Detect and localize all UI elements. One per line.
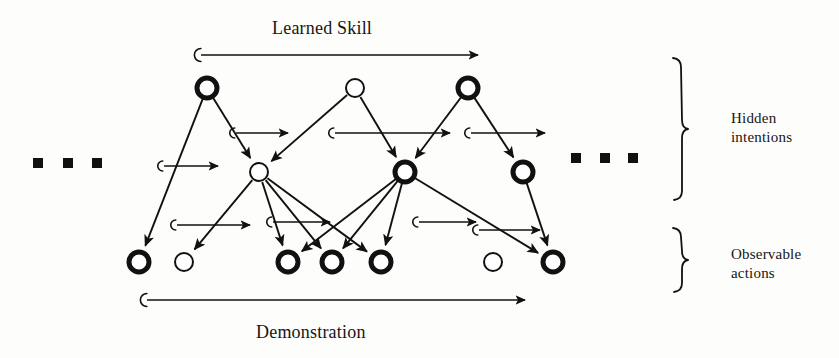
nodes-group	[129, 78, 563, 272]
timeline-arrow-intention-top-arrow-3	[465, 128, 545, 138]
arrow-tail-cup-icon	[171, 220, 176, 230]
node-a1	[129, 252, 149, 272]
edge-m1-to-a4	[266, 180, 321, 248]
hidden-intentions-label: Hidden intentions	[731, 109, 792, 147]
ellipses-group	[33, 153, 638, 168]
timeline-arrow-intention-mid-arrow-1	[158, 161, 218, 171]
timeline-arrow-demonstration-timeline	[140, 294, 525, 307]
observable-actions-label: Observable actions	[731, 245, 801, 283]
node-t2	[346, 79, 364, 97]
edge-t3-to-m2	[416, 97, 462, 158]
edge-t3-to-m3	[474, 98, 513, 158]
node-a5	[371, 252, 391, 272]
node-a7	[543, 252, 563, 272]
right-ellipsis-dot-2	[600, 153, 610, 163]
node-m1	[250, 163, 268, 181]
edge-m1-to-a3	[262, 182, 282, 245]
timeline-arrow-action-arrow-1	[171, 220, 250, 230]
observable-actions-label-line1: Observable	[731, 245, 801, 264]
learned-skill-label: Learned Skill	[272, 18, 372, 39]
node-a2	[175, 253, 193, 271]
timeline-arrow-action-arrow-3	[413, 217, 476, 227]
node-t1	[197, 78, 217, 98]
observable-actions-label-line2: actions	[731, 264, 801, 283]
brace-hidden-intentions	[673, 58, 688, 200]
node-m2	[395, 162, 415, 182]
node-a4	[322, 252, 342, 272]
hidden-intentions-label-line1: Hidden	[731, 109, 792, 128]
edge-m3-to-a7	[527, 183, 548, 245]
arrow-tail-cup-icon	[267, 217, 272, 227]
brace-observable-actions	[673, 228, 688, 292]
brackets-group	[673, 58, 688, 292]
arrow-tail-cup-icon	[465, 128, 470, 138]
edge-m2-to-a7	[415, 178, 538, 253]
timeline-arrow-intention-top-arrow-1	[230, 128, 288, 138]
edge-t1-to-a1	[145, 99, 202, 246]
arrow-tail-cup-icon	[329, 128, 334, 138]
timeline-arrow-skill-timeline	[194, 49, 478, 62]
arrow-tail-cup-icon	[158, 161, 163, 171]
node-m3	[513, 162, 533, 182]
node-t3	[458, 78, 478, 98]
arrow-tail-cup-icon	[140, 294, 146, 307]
edge-t1-to-m1	[213, 98, 250, 158]
edge-t2-to-m1	[271, 95, 347, 161]
left-ellipsis-dot-2	[63, 158, 73, 168]
arrow-tail-cup-icon	[413, 217, 418, 227]
edge-t2-to-m2	[360, 97, 396, 157]
network-diagram	[0, 0, 839, 358]
edge-m1-to-a2	[195, 180, 253, 249]
right-ellipsis-dot-3	[628, 153, 638, 163]
node-a6	[484, 253, 502, 271]
edge-m2-to-a4	[343, 181, 398, 248]
figure-root: Learned Skill Demonstration Hidden inten…	[0, 0, 839, 358]
right-ellipsis-dot-1	[571, 153, 581, 163]
left-ellipsis-dot-1	[33, 158, 43, 168]
hidden-intentions-label-line2: intentions	[731, 128, 792, 147]
node-a3	[278, 252, 298, 272]
arrow-tail-cup-icon	[473, 225, 478, 235]
demonstration-label: Demonstration	[256, 322, 366, 343]
arrow-tail-cup-icon	[194, 49, 201, 62]
left-ellipsis-dot-3	[92, 158, 102, 168]
